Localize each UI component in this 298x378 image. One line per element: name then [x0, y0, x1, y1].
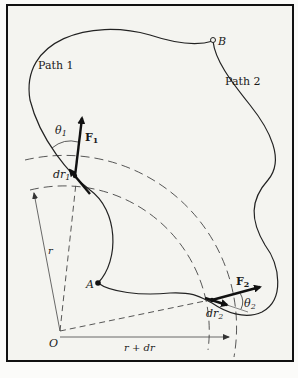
path-2-label: Path 2: [225, 75, 260, 88]
radius-plus-dr-label: r + dr: [124, 342, 156, 353]
point-a-marker: [95, 280, 101, 286]
point-a-label: A: [85, 278, 94, 291]
point-b-label: B: [217, 35, 226, 48]
force-paths-diagram: Path 1 Path 2 B A O r r + dr θ1 F1 dr1 F…: [0, 0, 298, 378]
path-1-label: Path 1: [38, 59, 73, 72]
origin-label: O: [49, 337, 58, 350]
point-b-marker: [211, 38, 216, 43]
